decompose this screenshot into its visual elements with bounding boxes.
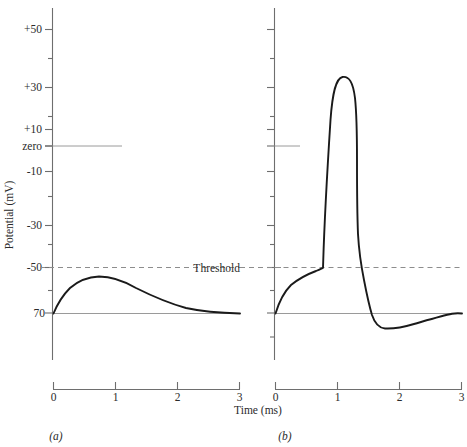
y-tick-label-zero: zero [22, 140, 42, 152]
panel-b-label: (b) [278, 430, 292, 443]
figure-svg: Potential (mV) +50 +30 +10 zero -10 -30 … [0, 0, 467, 447]
x-axis-title: Time (ms) [234, 404, 282, 417]
threshold-label: Threshold [193, 262, 240, 274]
panel-a-subthreshold-curve [54, 277, 241, 314]
panel-a-xtick-label-0: 0 [51, 391, 57, 403]
panel-b-action-potential-curve [276, 77, 463, 329]
y-tick-label-minus50: -50 [27, 261, 43, 273]
panel-a-xtick-label-2: 2 [175, 391, 181, 403]
y-tick-label-minus30: -30 [27, 219, 43, 231]
y-tick-label-plus30: +30 [24, 81, 42, 93]
panel-b-tick-group [267, 30, 275, 338]
panel-b-xtick-label-0: 0 [273, 391, 279, 403]
panel-b-xtick-label-2: 2 [397, 391, 403, 403]
panel-a-xtick-label-3: 3 [237, 391, 243, 403]
panel-a-label: (a) [49, 430, 63, 443]
y-axis-title: Potential (mV) [3, 180, 16, 249]
panel-a-xtick-label-1: 1 [113, 391, 119, 403]
y-tick-label-minus70: 70 [34, 307, 46, 319]
y-tick-label-plus10: +10 [24, 123, 42, 135]
figure-action-potential: Potential (mV) +50 +30 +10 zero -10 -30 … [0, 0, 467, 447]
panel-b-xtick-label-3: 3 [459, 391, 465, 403]
y-tick-label-plus50: +50 [24, 23, 42, 35]
panel-b-xtick-label-1: 1 [335, 391, 341, 403]
y-tick-label-minus10: -10 [27, 165, 43, 177]
panel-a-tick-group-lower [45, 130, 53, 314]
